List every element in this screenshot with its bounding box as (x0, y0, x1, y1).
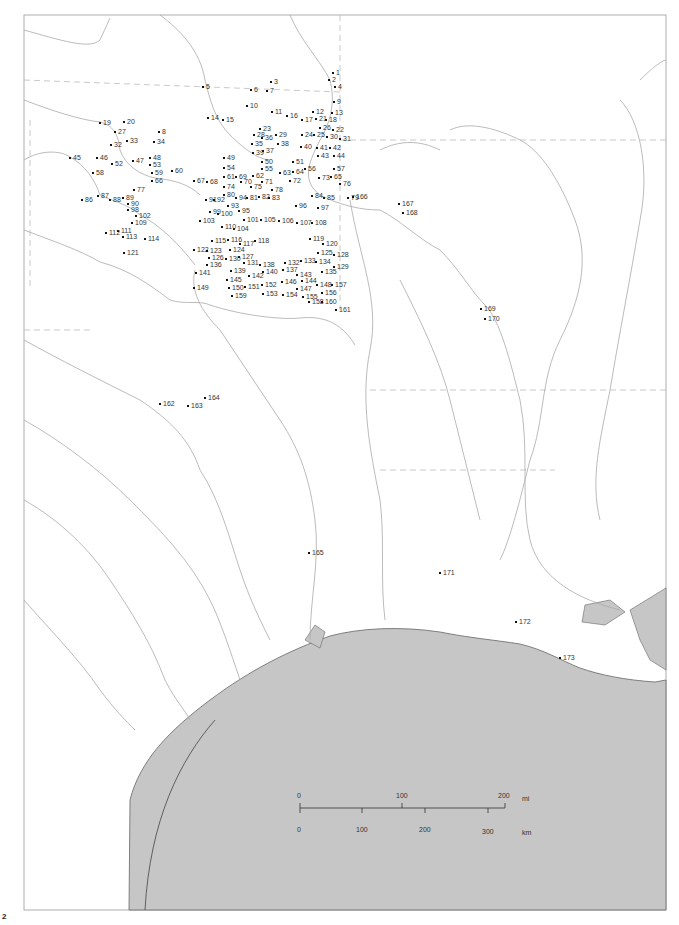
site-label: 78 (275, 186, 283, 193)
site-marker: 97 (317, 204, 329, 211)
site-dot-icon (402, 212, 404, 214)
site-dot-icon (261, 161, 263, 163)
site-dot-icon (123, 252, 125, 254)
site-dot-icon (301, 119, 303, 121)
site-marker: 24 (301, 131, 313, 138)
site-dot-icon (262, 293, 264, 295)
site-label: 11 (275, 108, 282, 115)
site-label: 21 (319, 115, 327, 122)
site-label: 63 (283, 169, 291, 176)
site-marker: 1 (332, 69, 340, 76)
site-dot-icon (135, 215, 137, 217)
site-dot-icon (207, 117, 209, 119)
site-dot-icon (204, 397, 206, 399)
site-marker: 61 (223, 173, 235, 180)
site-marker: 148 (316, 281, 332, 288)
site-label: 19 (103, 119, 111, 126)
site-dot-icon (217, 213, 219, 215)
site-marker: 153 (262, 290, 278, 297)
site-dot-icon (131, 222, 133, 224)
site-dot-icon (244, 286, 246, 288)
site-marker: 12 (312, 108, 324, 115)
site-label: 29 (279, 131, 287, 138)
site-dot-icon (266, 90, 268, 92)
site-marker: 6 (250, 86, 258, 93)
site-dot-icon (239, 243, 241, 245)
site-label: 95 (242, 207, 250, 214)
site-marker: 21 (315, 115, 327, 122)
site-dot-icon (332, 72, 334, 74)
site-dot-icon (352, 196, 354, 198)
site-label: 135 (325, 268, 337, 275)
site-dot-icon (296, 222, 298, 224)
site-label: 115 (215, 237, 226, 244)
site-marker: 31 (339, 135, 351, 142)
site-label: 25 (317, 131, 325, 138)
site-dot-icon (295, 205, 297, 207)
site-marker: 36 (261, 134, 273, 141)
site-label: 146 (285, 278, 297, 285)
site-dot-icon (250, 89, 252, 91)
site-label: 38 (281, 140, 289, 147)
site-marker: 35 (251, 140, 263, 147)
site-marker: 10 (246, 102, 258, 109)
site-marker: 171 (439, 569, 455, 576)
site-marker: 105 (260, 216, 276, 223)
site-label: 13 (335, 109, 343, 116)
site-marker: 84 (311, 192, 323, 199)
site-label: 20 (127, 118, 135, 125)
site-dot-icon (99, 122, 101, 124)
scale-km-tick-100: 100 (356, 826, 368, 833)
site-label: 103 (203, 217, 215, 224)
site-marker: 51 (292, 158, 304, 165)
site-marker: 144 (301, 277, 317, 284)
site-dot-icon (230, 270, 232, 272)
site-label: 170 (488, 315, 500, 322)
site-marker: 46 (96, 154, 108, 161)
site-label: 34 (157, 138, 165, 145)
site-marker: 67 (193, 177, 205, 184)
site-label: 15 (226, 116, 234, 123)
scale-km-tick-0: 0 (297, 826, 301, 833)
site-label: 6 (254, 86, 258, 93)
rivers (24, 15, 666, 730)
site-dot-icon (319, 127, 321, 129)
site-dot-icon (301, 280, 303, 282)
site-marker: 8 (158, 128, 166, 135)
site-marker: 92 (213, 196, 225, 203)
site-label: 102 (139, 212, 151, 219)
site-label: 39 (256, 149, 264, 156)
site-dot-icon (149, 164, 151, 166)
site-label: 7 (270, 87, 274, 94)
site-marker: 55 (261, 165, 273, 172)
site-marker: 157 (331, 281, 347, 288)
site-dot-icon (258, 196, 260, 198)
site-label: 16 (290, 112, 298, 119)
site-dot-icon (311, 195, 313, 197)
site-marker: 162 (159, 400, 175, 407)
site-label: 140 (266, 268, 278, 275)
site-marker: 115 (211, 237, 226, 244)
site-dot-icon (308, 552, 310, 554)
site-dot-icon (187, 405, 189, 407)
site-dot-icon (205, 199, 207, 201)
site-dot-icon (97, 195, 99, 197)
site-marker: 64 (292, 168, 304, 175)
site-marker: 68 (206, 178, 218, 185)
site-marker: 152 (261, 281, 277, 288)
site-dot-icon (223, 157, 225, 159)
site-dot-icon (277, 143, 279, 145)
site-label: 120 (326, 240, 338, 247)
site-dot-icon (127, 203, 129, 205)
site-dot-icon (225, 258, 227, 260)
site-label: 128 (337, 251, 349, 258)
site-label: 43 (321, 152, 329, 159)
site-dot-icon (153, 141, 155, 143)
site-label: 159 (235, 292, 247, 299)
site-label: 47 (136, 157, 144, 164)
site-label: 5 (206, 83, 210, 90)
site-dot-icon (171, 170, 173, 172)
state-boundaries (24, 15, 666, 470)
site-dot-icon (199, 220, 201, 222)
site-label: 149 (197, 284, 209, 291)
